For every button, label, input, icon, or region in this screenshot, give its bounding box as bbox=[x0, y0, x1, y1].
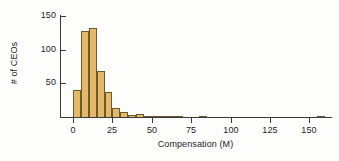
histogram-bar bbox=[97, 71, 105, 117]
histogram-bar bbox=[89, 28, 97, 117]
y-tick-mark bbox=[61, 16, 66, 17]
y-tick-label: 150 bbox=[22, 10, 56, 20]
x-tick-label: 75 bbox=[176, 125, 206, 135]
x-tick-mark bbox=[270, 118, 271, 123]
x-tick-label: 50 bbox=[137, 125, 167, 135]
x-tick-label: 150 bbox=[294, 125, 324, 135]
y-axis-title: # of CEOs bbox=[9, 28, 23, 98]
x-tick-label: 25 bbox=[97, 125, 127, 135]
x-tick-mark bbox=[112, 118, 113, 123]
y-tick-mark bbox=[61, 83, 66, 84]
y-tick-mark bbox=[61, 50, 66, 51]
x-tick-mark bbox=[309, 118, 310, 123]
histogram-bar bbox=[73, 90, 81, 117]
histogram-bar bbox=[81, 31, 89, 117]
histogram-bar bbox=[105, 92, 113, 117]
x-tick-label: 125 bbox=[255, 125, 285, 135]
y-axis-line bbox=[60, 15, 61, 118]
x-tick-label: 100 bbox=[216, 125, 246, 135]
histogram-figure: # of CEOs 50100150 0255075100125150 Comp… bbox=[0, 0, 339, 161]
y-tick-label: 100 bbox=[22, 44, 56, 54]
x-tick-mark bbox=[73, 118, 74, 123]
histogram-bar bbox=[112, 108, 120, 117]
x-tick-mark bbox=[191, 118, 192, 123]
x-tick-mark bbox=[231, 118, 232, 123]
y-tick-label: 50 bbox=[22, 77, 56, 87]
x-axis-title: Compensation (M) bbox=[0, 139, 339, 149]
x-tick-mark bbox=[152, 118, 153, 123]
x-tick-label: 0 bbox=[58, 125, 88, 135]
x-axis-line bbox=[60, 117, 332, 118]
